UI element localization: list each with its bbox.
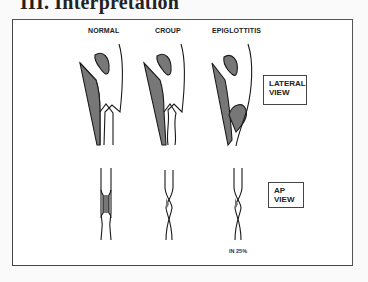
- ap-view-line2: VIEW: [274, 195, 298, 204]
- croup-lateral-airway: [144, 44, 185, 145]
- prevertebral-shade: [80, 63, 100, 145]
- normal-ap-airway: [101, 168, 111, 240]
- lateral-view-line1: LATERAL: [269, 79, 301, 88]
- epiglottitis-lateral-airway: [212, 44, 252, 146]
- lateral-view-line2: VIEW: [269, 88, 301, 97]
- epiglottis-shape: [95, 53, 109, 74]
- airway-diagram: [0, 0, 368, 282]
- ap-view-label: AP VIEW: [268, 182, 304, 208]
- normal-lateral-airway: [80, 44, 123, 145]
- ap-view-line1: AP: [274, 186, 298, 195]
- croup-ap-airway: [165, 170, 173, 240]
- epiglottitis-ap-note: IN 25%: [229, 248, 247, 254]
- epiglottitis-ap-airway: [234, 168, 242, 240]
- lateral-view-label: LATERAL VIEW: [263, 75, 307, 105]
